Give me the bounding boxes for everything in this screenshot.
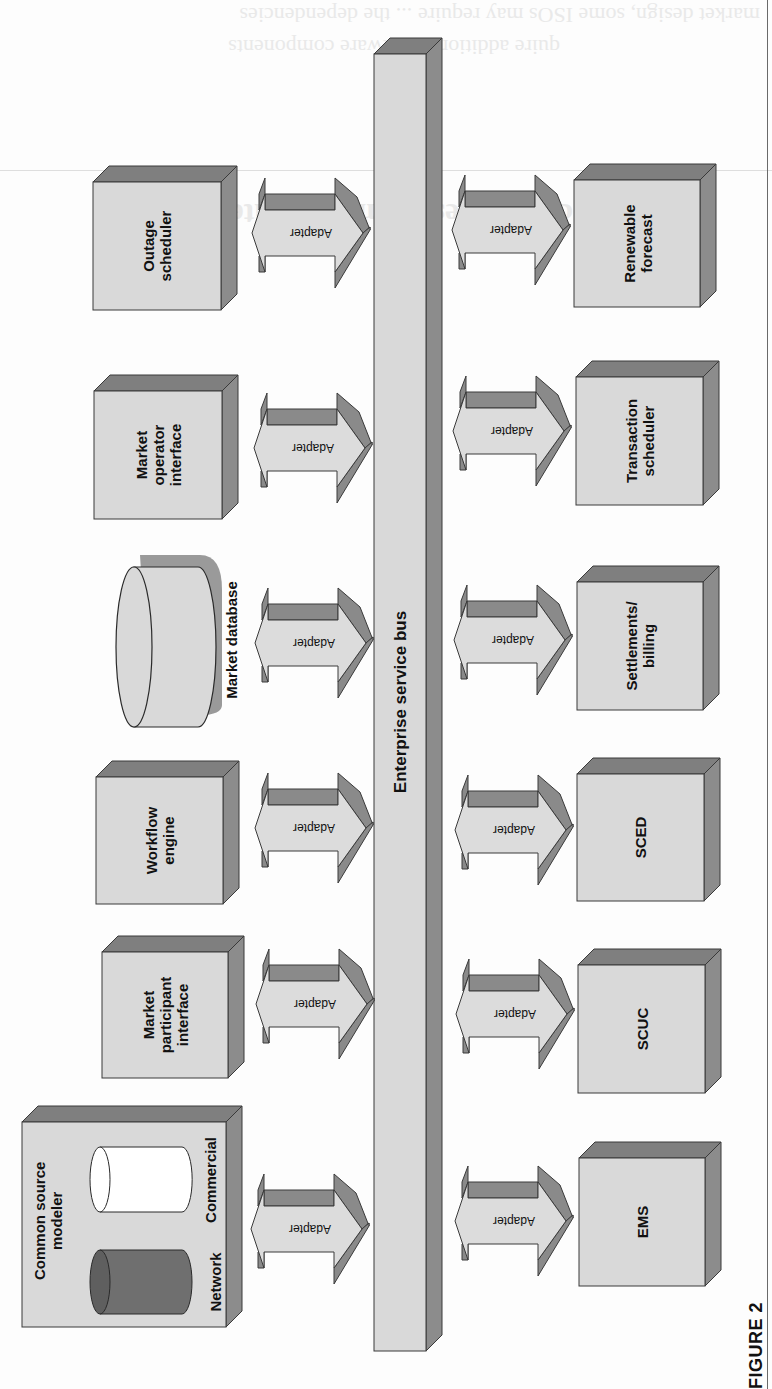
renewable-forecast-label: Renewable forecast <box>574 181 701 307</box>
adapter-label-transaction: Adapter <box>477 421 547 441</box>
settlements-billing-label: Settlements/ billing <box>576 583 704 709</box>
adapter-label-market-database: Adapter <box>279 633 349 653</box>
market-operator-interface-label: Market operator interface <box>94 391 222 519</box>
figure-caption: FIGURE 2 <box>746 1299 768 1389</box>
adapter-label-outage: Adapter <box>276 223 346 243</box>
ems-label: EMS <box>578 1159 706 1285</box>
network-db-label: Network <box>205 1237 225 1327</box>
transaction-scheduler-label: Transaction scheduler <box>576 378 704 505</box>
enterprise-service-bus-label: Enterprise service bus <box>388 602 412 802</box>
network-db-cylinder <box>90 1250 192 1314</box>
adapter-label-renewable: Adapter <box>476 220 546 240</box>
adapter-label-market-participant: Adapter <box>280 994 350 1014</box>
commercial-db-cylinder <box>90 1147 192 1212</box>
adapter-label-scuc: Adapter <box>480 1004 550 1024</box>
market-participant-interface-label: Market participant interface <box>102 952 228 1078</box>
scuc-label: SCUC <box>578 966 706 1093</box>
market-database-label: Market database <box>221 550 241 730</box>
adapter-label-ems: Adapter <box>479 1211 549 1231</box>
adapter-label-market-operator: Adapter <box>278 438 348 458</box>
adapter-label-common-source: Adapter <box>275 1219 345 1239</box>
sced-label: SCED <box>577 774 704 901</box>
figure-canvas: market design, some ISOs may require ...… <box>0 0 772 1389</box>
adapter-label-sced: Adapter <box>479 820 549 840</box>
workflow-engine-label: Workflow engine <box>96 777 223 904</box>
commercial-db-label: Commercial <box>200 1120 220 1240</box>
common-source-modeler-label: Common source modeler <box>28 1120 68 1280</box>
outage-scheduler-label: Outage scheduler <box>93 182 221 310</box>
adapter-label-workflow: Adapter <box>279 818 349 838</box>
adapter-label-settlements: Adapter <box>478 630 548 650</box>
market-database-cylinder <box>116 555 222 727</box>
